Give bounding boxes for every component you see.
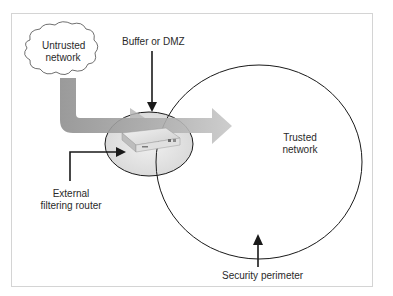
perimeter-pointer-arrowhead — [253, 234, 263, 245]
untrusted-network-label: Untrusted network — [42, 40, 84, 64]
buffer-dmz-label: Buffer or DMZ — [122, 36, 184, 48]
trusted-network-perimeter — [156, 65, 362, 259]
external-router-label: External filtering router — [40, 188, 102, 212]
security-perimeter-label: Security perimeter — [222, 270, 298, 282]
trusted-network-label: Trusted network — [275, 132, 325, 156]
dmz-pointer-arrowhead — [147, 102, 157, 112]
